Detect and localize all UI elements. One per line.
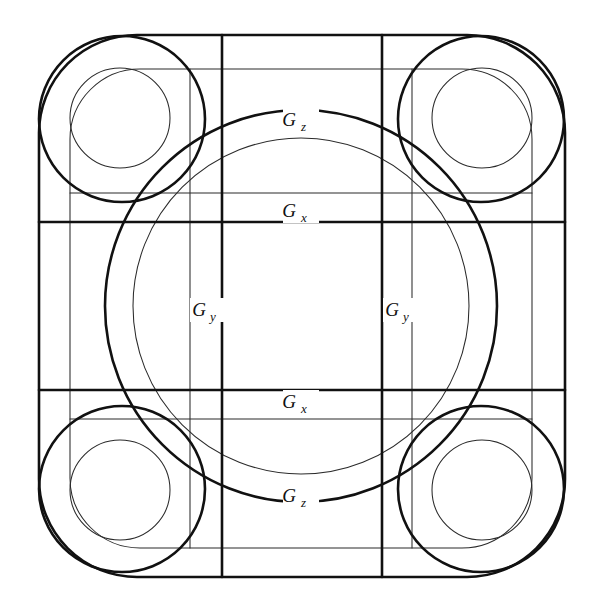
label-gy-right-sub: y (401, 309, 409, 324)
label-gx-top-sub: x (300, 210, 307, 225)
label-gx-bottom-sub: x (300, 401, 307, 416)
label-gx-bottom-base: G (282, 391, 296, 412)
figure-canvas: G z G x G y G y G x G z (0, 0, 601, 607)
label-gz-bottom-base: G (282, 485, 296, 506)
label-gy-right-base: G (385, 299, 399, 320)
label-gz-top-sub: z (300, 119, 306, 134)
label-gy-left-base: G (192, 299, 206, 320)
generator-loops-diagram: G z G x G y G y G x G z (0, 0, 601, 607)
label-gy-left-sub: y (208, 309, 216, 324)
label-gx-top-base: G (282, 200, 296, 221)
label-gz-top-base: G (282, 109, 296, 130)
label-gz-bottom-sub: z (300, 495, 306, 510)
figure-background (0, 0, 601, 607)
